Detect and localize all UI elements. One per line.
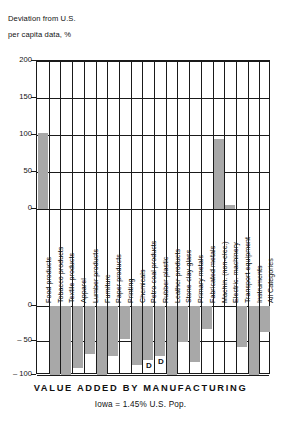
- y-tick-label-0: 0: [0, 300, 32, 309]
- y-tick-label-50: 50: [0, 166, 32, 175]
- category-label: Textile products: [68, 210, 76, 303]
- chart-title: VALUE ADDED BY MANUFACTURING: [0, 383, 281, 393]
- category-label: Tobacco products: [57, 210, 65, 303]
- bar: [85, 306, 95, 354]
- y-tick-mark: [31, 340, 36, 341]
- bar: [178, 306, 188, 342]
- axis-title-line-2: per capita data, %: [8, 30, 71, 39]
- category-label: Rubber-plastic: [162, 210, 170, 303]
- bar: [143, 306, 153, 360]
- bar: [225, 205, 235, 209]
- category-label: Instruments: [256, 210, 264, 303]
- bar: [260, 306, 270, 332]
- y-tick-mark: [31, 305, 36, 306]
- category-label: All Categories: [267, 210, 275, 303]
- bar: [155, 306, 165, 356]
- bar: [249, 306, 259, 375]
- bar: [237, 306, 247, 347]
- bar: [214, 139, 224, 209]
- category-label: Primary metals: [197, 210, 205, 303]
- category-label: Stone-clay-glass: [185, 210, 193, 303]
- y-tick-label-0: 0: [0, 203, 32, 212]
- category-label: Lumber products: [92, 210, 100, 303]
- y-tick-mark: [31, 134, 36, 135]
- bar: [38, 133, 48, 209]
- category-label: Paper products: [115, 210, 123, 303]
- y-tick-label-150: 150: [0, 92, 32, 101]
- category-label: Furniture: [104, 210, 112, 303]
- bar: [73, 306, 83, 368]
- bar: [108, 306, 118, 356]
- y-tick-mark: [31, 97, 36, 98]
- chart-figure: Deviation from U.S. per capita data, % D…: [0, 0, 281, 421]
- y-tick-mark: [31, 171, 36, 172]
- y-tick-label-200: 200: [0, 55, 32, 64]
- gridline--100: [37, 375, 269, 376]
- y-tick-mark: [31, 60, 36, 61]
- chart-subtitle: Iowa = 1.45% U.S. Pop.: [0, 400, 281, 409]
- disclosure-marker: D: [145, 361, 152, 371]
- bar: [202, 306, 212, 329]
- category-label: Printing: [127, 210, 135, 303]
- category-label: Apparel: [80, 210, 88, 303]
- category-label: Leather products: [174, 210, 182, 303]
- y-tick-mark: [31, 374, 36, 375]
- bar: [61, 306, 71, 375]
- category-label: Chemicals: [139, 210, 147, 303]
- bar: [190, 306, 200, 362]
- category-label: Electric. machinery: [232, 210, 240, 303]
- category-label: Fabricated metals: [209, 210, 217, 303]
- category-label: Food products: [45, 210, 53, 303]
- bar: [167, 306, 177, 375]
- disclosure-marker: D: [157, 357, 164, 367]
- bar: [50, 306, 60, 375]
- y-tick-label-50: – 50: [0, 335, 32, 344]
- y-tick-label-100: – 100: [0, 369, 32, 378]
- bar: [132, 306, 142, 365]
- category-label: Petro-coal products: [150, 210, 158, 303]
- y-tick-mark: [31, 208, 36, 209]
- y-tick-label-100: 100: [0, 129, 32, 138]
- bar: [120, 306, 130, 339]
- axis-title-line-1: Deviation from U.S.: [8, 14, 76, 23]
- category-label: Machin. (non-elec.): [221, 210, 229, 303]
- bar: [97, 306, 107, 375]
- category-label: Transport equipment: [244, 210, 252, 303]
